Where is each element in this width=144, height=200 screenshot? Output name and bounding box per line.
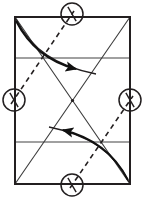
center-point [71, 99, 74, 102]
origami-diagram-container [0, 0, 144, 200]
origami-diagram [0, 0, 144, 200]
